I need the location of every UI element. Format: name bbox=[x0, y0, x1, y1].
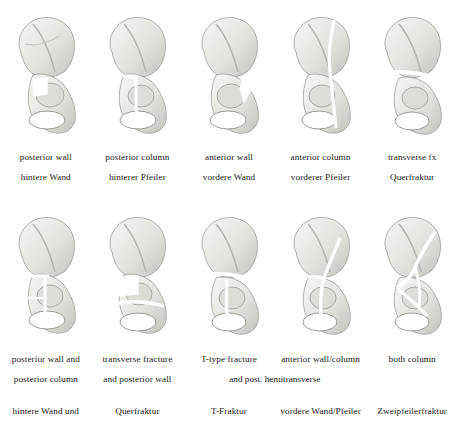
caption-t-type-de: T-Fraktur bbox=[183, 402, 275, 421]
illustration-row-elementary bbox=[0, 10, 458, 145]
caption-spacer-3 bbox=[366, 370, 458, 390]
panel-both-column bbox=[366, 210, 458, 345]
pelvis-posterior-column-fracture-icon bbox=[94, 10, 180, 145]
caption-transverse-de: Querfraktur bbox=[366, 168, 458, 188]
panel-transverse bbox=[366, 10, 458, 145]
caption-anterior-wall-en: anterior wall bbox=[183, 148, 275, 168]
caption-anterior-wall-column-en1: anterior wall/column bbox=[275, 350, 367, 370]
caption-anterior-wall-de: vordere Wand bbox=[183, 168, 275, 188]
caption-transverse-and-posterior-wall-en2: and posterior wall bbox=[92, 370, 184, 390]
caption-posterior-column-de: hinterer Pfeiler bbox=[92, 168, 184, 188]
caption-row-top-german: hintere Wand hinterer Pfeiler vordere Wa… bbox=[0, 168, 458, 188]
illustration-row-associated bbox=[0, 210, 458, 345]
panel-transverse-and-posterior-wall bbox=[92, 210, 184, 345]
caption-transverse-en: transverse fx bbox=[366, 148, 458, 168]
caption-both-column-de: Zweipfeilerfraktur bbox=[366, 402, 458, 421]
panel-anterior-wall-column-hemitransverse bbox=[275, 210, 367, 345]
panel-posterior-wall-and-column bbox=[0, 210, 92, 345]
panel-posterior-wall bbox=[0, 10, 92, 145]
panel-t-type bbox=[183, 210, 275, 345]
caption-anterior-column-en: anterior column bbox=[275, 148, 367, 168]
pelvis-anterior-wall-column-hemitransverse-fracture-icon bbox=[278, 210, 364, 345]
pelvis-anterior-column-fracture-icon bbox=[278, 10, 364, 145]
pelvis-anterior-wall-fracture-icon bbox=[186, 10, 272, 145]
panel-anterior-wall bbox=[183, 10, 275, 145]
caption-row-bottom-english-line1: posterior wall and transverse fracture T… bbox=[0, 350, 458, 370]
caption-transverse-and-posterior-wall-de: Querfraktur bbox=[92, 402, 184, 421]
pelvis-transverse-fracture-icon bbox=[369, 10, 455, 145]
caption-row-top-english: posterior wall posterior column anterior… bbox=[0, 148, 458, 168]
caption-anterior-column-de: vorderer Pfeiler bbox=[275, 168, 367, 188]
caption-post-hemitransverse-span: and post. hemitransverse bbox=[183, 370, 366, 390]
caption-row-bottom-german: hintere Wand und Querfraktur T-Fraktur v… bbox=[0, 402, 458, 421]
caption-posterior-wall-de: hintere Wand bbox=[0, 168, 92, 188]
caption-posterior-wall-en: posterior wall bbox=[0, 148, 92, 168]
caption-both-column-en1: both column bbox=[366, 350, 458, 370]
caption-posterior-wall-and-column-en1: posterior wall and bbox=[0, 350, 92, 370]
pelvis-both-column-fracture-icon bbox=[369, 210, 455, 345]
caption-posterior-wall-and-column-de: hintere Wand und bbox=[0, 402, 92, 421]
caption-posterior-wall-and-column-en2: posterior column bbox=[0, 370, 92, 390]
caption-anterior-wall-column-de: vordere Wand/Pfeiler bbox=[275, 402, 367, 421]
pelvis-posterior-wall-fracture-icon bbox=[3, 10, 89, 145]
panel-posterior-column bbox=[92, 10, 184, 145]
pelvis-transverse-and-posterior-wall-fracture-icon bbox=[94, 210, 180, 345]
pelvis-t-type-fracture-icon bbox=[186, 210, 272, 345]
acetabular-fracture-classification-figure: posterior wall posterior column anterior… bbox=[0, 0, 458, 421]
panel-anterior-column bbox=[275, 10, 367, 145]
pelvis-posterior-wall-and-column-fracture-icon bbox=[3, 210, 89, 345]
caption-t-type-en1: T-type fracture bbox=[183, 350, 275, 370]
caption-transverse-and-posterior-wall-en1: transverse fracture bbox=[92, 350, 184, 370]
caption-posterior-column-en: posterior column bbox=[92, 148, 184, 168]
